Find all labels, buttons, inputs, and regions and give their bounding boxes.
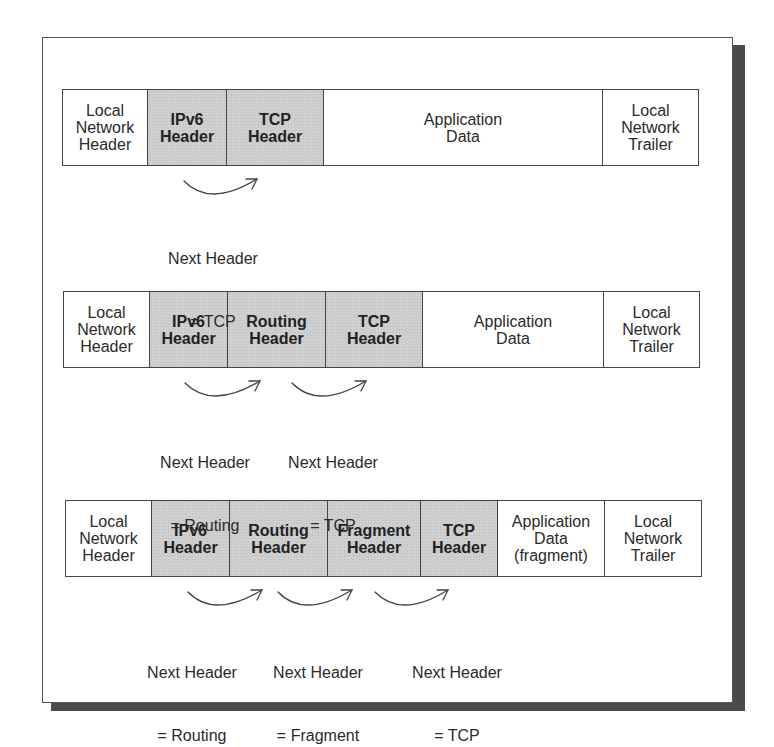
cell-local-network-trailer: Local Network Trailer bbox=[603, 90, 698, 165]
packet-row-routing: Local Network Header IPv6 Header Routing… bbox=[63, 291, 700, 368]
cell-ipv6-header: IPv6 Header bbox=[148, 90, 227, 165]
cell-tcp-header: TCP Header bbox=[227, 90, 324, 165]
cell-application-data: Application Data bbox=[423, 292, 604, 367]
next-header-title: Next Header bbox=[160, 452, 250, 473]
cell-local-network-header: Local Network Header bbox=[63, 90, 148, 165]
cell-local-network-trailer: Local Network Trailer bbox=[605, 501, 701, 576]
next-header-label: Next Header = TCP bbox=[168, 206, 258, 353]
next-header-value: = Routing bbox=[147, 725, 237, 746]
packet-row-basic: Local Network Header IPv6 Header TCP Hea… bbox=[62, 89, 699, 166]
cell-application-data-fragment: Application Data (fragment) bbox=[498, 501, 605, 576]
cell-tcp-header: TCP Header bbox=[326, 292, 423, 367]
next-header-value: = TCP bbox=[412, 725, 502, 746]
cell-local-network-header: Local Network Header bbox=[66, 501, 152, 576]
next-header-label: Next Header = Routing bbox=[160, 410, 250, 557]
next-header-title: Next Header bbox=[288, 452, 378, 473]
cell-local-network-header: Local Network Header bbox=[64, 292, 150, 367]
cell-application-data: Application Data bbox=[324, 90, 603, 165]
next-header-value: = Fragment bbox=[273, 725, 363, 746]
next-header-value: = TCP bbox=[168, 311, 258, 332]
cell-tcp-header: TCP Header bbox=[421, 501, 498, 576]
next-header-label: Next Header = Routing bbox=[147, 620, 237, 747]
next-header-label: Next Header = TCP bbox=[412, 620, 502, 747]
next-header-title: Next Header bbox=[168, 248, 258, 269]
next-header-label: Next Header = Fragment bbox=[273, 620, 363, 747]
next-header-value: = Routing bbox=[160, 515, 250, 536]
next-header-label: Next Header = TCP bbox=[288, 410, 378, 557]
next-header-title: Next Header bbox=[412, 662, 502, 683]
cell-local-network-trailer: Local Network Trailer bbox=[604, 292, 699, 367]
next-header-value: = TCP bbox=[288, 515, 378, 536]
next-header-title: Next Header bbox=[273, 662, 363, 683]
next-header-title: Next Header bbox=[147, 662, 237, 683]
